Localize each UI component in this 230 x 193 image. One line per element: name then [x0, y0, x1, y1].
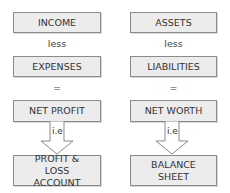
- net-worth-box: NET WORTH: [130, 100, 217, 122]
- expenses-label: EXPENSES: [32, 61, 81, 73]
- profit-loss-account-label: PROFIT & LOSS ACCOUNT: [22, 153, 92, 189]
- assets-box: ASSETS: [130, 12, 217, 33]
- less-operator-left: less: [13, 38, 101, 49]
- equals-operator-left: =: [13, 82, 101, 93]
- expenses-box: EXPENSES: [13, 56, 101, 77]
- balance-sheet-label: BALANCE SHEET: [144, 159, 204, 183]
- ie-label-left: i.e: [52, 126, 63, 136]
- income-box: INCOME: [13, 12, 101, 33]
- net-profit-box: NET PROFIT: [13, 100, 101, 122]
- liabilities-box: LIABILITIES: [130, 56, 217, 77]
- assets-label: ASSETS: [155, 17, 191, 29]
- net-worth-label: NET WORTH: [145, 105, 203, 117]
- profit-loss-account-box: PROFIT & LOSS ACCOUNT: [13, 155, 101, 186]
- ie-label-right: i.e: [167, 126, 178, 136]
- less-operator-right: less: [130, 38, 217, 49]
- income-label: INCOME: [38, 17, 76, 29]
- liabilities-label: LIABILITIES: [147, 61, 200, 73]
- balance-sheet-box: BALANCE SHEET: [130, 155, 217, 186]
- equals-operator-right: =: [130, 82, 217, 93]
- net-profit-label: NET PROFIT: [29, 105, 85, 117]
